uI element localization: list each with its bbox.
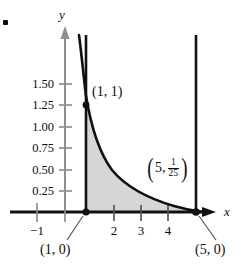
fraction-numerator: 1 [170,158,177,168]
xtick-label-2: 2 [104,224,124,237]
xtick-label-minus-1: −1 [25,224,49,237]
fraction-one-over-25: 1 25 [168,158,180,179]
point-label-1-1: (1, 1) [92,85,122,99]
ytick-label-1-25: 1.25 [20,99,54,112]
point-marker-1-1 [83,102,90,109]
fraction-denominator: 25 [168,169,180,179]
leader-line-5-0 [199,216,216,240]
ytick-label-0-25: 0.25 [20,185,54,198]
xtick-label-3: 3 [131,224,151,237]
ytick-label-1-50: 1.50 [20,78,54,91]
ytick-label-1-00: 1.00 [20,121,54,134]
ytick-label-0-50: 0.50 [20,164,54,177]
open-paren: ( [147,157,153,179]
y-axis-label: y [59,8,65,21]
close-paren: ) [181,157,187,179]
point-label-5-one-25: ( 5, 1 25 ) [146,157,189,179]
point-marker-1-0 [82,208,89,215]
leader-line-1-0 [67,216,83,240]
x-axis-label: x [224,205,230,218]
point-marker-5-0 [192,208,200,216]
xtick-label-4: 4 [158,224,178,237]
y-axis-arrow [61,26,70,39]
foot-label-5-0: (5, 0) [195,243,225,257]
ytick-label-0-75: 0.75 [20,142,54,155]
figure-area-under-curve: 1.50 1.25 1.00 0.75 0.50 0.25 −1 2 3 4 y… [0,0,241,268]
foot-label-1-0: (1, 0) [40,243,70,257]
fraction-label-first-coord: 5, [155,161,167,175]
